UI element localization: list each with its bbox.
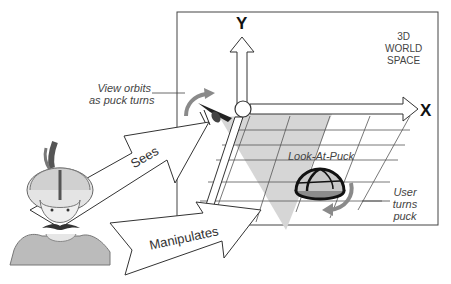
x-axis-label: X (420, 101, 431, 121)
view-orbit-arrowhead-icon (204, 88, 215, 99)
y-axis-arrow (230, 37, 254, 108)
user-turns-label: User turns puck (390, 186, 420, 222)
world-space-line-1: 3D (385, 31, 422, 43)
puck-icon (296, 169, 344, 199)
view-orbits-label: View orbits as puck turns (89, 82, 151, 106)
world-space-line-2: WORLD (385, 43, 422, 55)
world-space-line-3: SPACE (385, 55, 422, 67)
view-orbits-line-1: View orbits (89, 82, 151, 94)
view-orbits-line-2: as puck turns (89, 94, 151, 106)
view-orbit-arrow-icon (186, 94, 206, 116)
origin-marker (235, 101, 251, 117)
world-space-label: 3D WORLD SPACE (385, 31, 422, 67)
diagram-canvas (0, 0, 451, 284)
turn-puck-arrowhead-icon (322, 203, 333, 216)
user-turns-line-1: User (390, 186, 420, 198)
user-turns-line-2: turns (390, 198, 420, 210)
technique-label: Look-At-Puck (288, 150, 354, 162)
y-axis-label: Y (236, 14, 247, 34)
user-turns-line-3: puck (390, 210, 420, 222)
